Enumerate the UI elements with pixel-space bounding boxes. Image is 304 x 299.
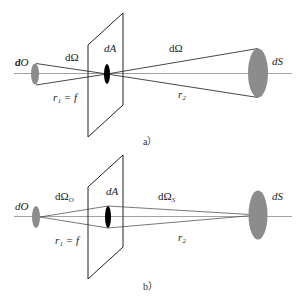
- label-dS: dS: [272, 190, 284, 202]
- ray-lower-object: [36, 74, 107, 85]
- label-dOmega-object: dΩ: [65, 51, 79, 63]
- caption-a: a）: [143, 136, 157, 147]
- ray-lower-object: [40, 217, 108, 228]
- aperture-element-ellipse: [104, 64, 110, 84]
- label-r2: r₂: [178, 88, 186, 100]
- label-dOmega-source-sub: S: [172, 196, 176, 204]
- label-r1: r₁ = f: [53, 91, 79, 103]
- label-dS: dS: [272, 55, 284, 67]
- ray-upper-object: [36, 64, 107, 75]
- label-dOmega-source: dΩ: [169, 42, 183, 54]
- label-dO-text: dO: [15, 56, 29, 68]
- aperture-element-ellipse: [105, 206, 111, 228]
- label-dOmega-object: dΩO: [55, 190, 74, 204]
- label-dA: dA: [104, 42, 117, 54]
- label-dOmega-object-sub: O: [69, 196, 74, 204]
- object-element-ellipse: [31, 64, 39, 85]
- label-dOmega-source: dΩS: [158, 190, 176, 204]
- source-element-ellipse: [248, 49, 268, 98]
- ray-upper-source: [108, 206, 258, 215]
- label-r2: r₂: [178, 231, 186, 243]
- label-dA: dA: [106, 185, 119, 197]
- label-dOmega-object-main: dΩ: [55, 190, 69, 202]
- ray-lower-source: [108, 215, 258, 228]
- label-r1: r₁ = f: [55, 234, 81, 246]
- source-element-ellipse: [249, 191, 268, 240]
- caption-b: b）: [143, 281, 158, 292]
- panel-b: dO dΩO dA dΩS dS r₁ = f r₂ b）: [14, 155, 292, 292]
- optics-diagram: d dO dΩ dA dΩ dS r₁ = f r₂ a） dO dΩO dA: [0, 0, 304, 299]
- label-dOmega-source-main: dΩ: [158, 190, 172, 202]
- panel-a: d dO dΩ dA dΩ dS r₁ = f r₂ a）: [14, 13, 292, 147]
- label-dO: dO: [15, 200, 29, 212]
- object-element-ellipse: [32, 206, 40, 228]
- ray-upper-object: [40, 206, 108, 217]
